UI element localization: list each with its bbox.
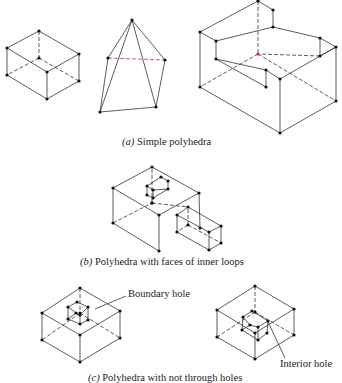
hidden-edge [258,54,336,101]
vertex [318,54,321,57]
hidden-edge [258,54,320,56]
vertex [186,223,189,226]
hole-edge [153,189,168,198]
vertex [318,36,321,39]
vertex [198,226,201,229]
edge [80,311,120,335]
vertex [219,224,222,227]
hole-vertex [250,309,253,312]
vertex [45,70,48,73]
hole-edge [243,311,252,317]
box-with-interior-hole [215,284,295,360]
vertex [197,191,200,194]
vertex [198,85,201,88]
vertex [214,39,217,42]
vertex [271,25,274,28]
hole-vertex [75,300,78,303]
hole-vertex [74,311,77,314]
hole-vertex [151,188,154,191]
edge [177,232,209,250]
hidden-edge [200,54,258,87]
leader-line [268,322,285,358]
edge [217,337,255,359]
edge [200,32,216,41]
hole-edge [242,317,243,330]
vertex [130,18,133,21]
vertex [78,333,81,336]
edge [7,31,39,48]
hole-vertex [256,325,259,328]
edge [216,59,266,87]
hole-vertex [265,331,268,334]
edge [152,167,199,193]
vertex [45,97,48,100]
leader-line [95,296,126,309]
edge [80,288,120,311]
vertex [264,85,267,88]
vertex [186,205,189,208]
vertex [334,45,337,48]
edge [159,193,199,215]
edge [216,59,266,70]
hole-vertex [145,193,148,196]
caption-a: (a) Simple polyhedra [122,136,211,147]
vertex [219,241,222,244]
hole-vertex [159,175,162,178]
caption-c-letter: (c) [88,372,100,383]
hole-vertex [66,305,69,308]
vertex [278,77,281,80]
edge [113,223,159,251]
hole-vertex [166,179,169,182]
edge [47,81,79,99]
vertex [111,221,114,224]
vertex [77,52,80,55]
edge [255,335,294,359]
vertex [278,131,281,134]
hole-vertex [166,187,169,190]
caption-b-letter: (b) [80,256,92,267]
box-with-inner-loops [111,165,222,252]
edge [320,47,336,56]
caption-c-text: Polyhedra with not through holes [100,372,243,383]
edge [7,48,47,72]
vertex [215,335,218,338]
caption-b-text: Polyhedra with faces of inner loops [92,256,244,267]
hole-edge [267,321,268,333]
vertex [77,79,80,82]
edge [258,1,273,10]
hole-vertex [240,328,243,331]
vertex [154,105,157,108]
interior-hole-label: Interior hole [280,358,332,369]
hidden-edge [39,58,79,81]
edge [320,38,336,47]
hidden-edge [42,313,80,340]
edge [209,226,221,232]
vertex [78,286,81,289]
hole-vertex [86,305,89,308]
hole-vertex [248,323,251,326]
hidden-edge [152,203,188,207]
boundary-hole-label: Boundary hole [128,288,190,299]
hidden-edge [113,203,152,223]
hole-vertex [66,317,69,320]
vertex [253,284,256,287]
vertex [150,201,153,204]
hidden-edge [7,58,39,75]
edge [42,313,80,335]
edge [255,286,294,309]
edge [47,54,79,72]
edge [217,310,255,333]
edge [200,87,280,133]
hole-vertex [145,184,148,187]
vertex [118,309,121,312]
hidden-edge [255,312,294,335]
vertex [150,165,153,168]
hole-edge [68,319,80,324]
hole-vertex [86,318,89,321]
hole-edge [77,302,88,307]
vertex [118,336,121,339]
vertex [198,30,201,33]
hole-edge [147,177,161,186]
hole-edge [242,330,258,340]
